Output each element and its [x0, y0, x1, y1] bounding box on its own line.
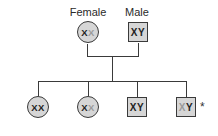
child-drop-line	[38, 81, 39, 96]
male-label: Male	[117, 6, 157, 18]
child-daughter-2: XX	[77, 96, 99, 118]
female-parent-symbol: XX	[77, 21, 99, 43]
chromosome: X	[131, 27, 138, 38]
sibship-line	[38, 81, 187, 82]
chromosome: X	[88, 27, 95, 38]
chromosome: X	[88, 102, 95, 113]
child-son-2: XY	[176, 97, 196, 117]
male-drop-line	[138, 43, 139, 56]
chromosome: Y	[186, 102, 193, 113]
chromosome: Y	[137, 102, 144, 113]
chromosome: X	[38, 102, 45, 113]
chromosome: X	[81, 27, 88, 38]
asterisk-marker: *	[200, 100, 205, 114]
chromosome: X	[130, 102, 137, 113]
male-parent-symbol: XY	[128, 22, 148, 42]
child-drop-line	[88, 81, 89, 96]
chromosome: Y	[138, 27, 145, 38]
chromosome: X	[31, 102, 38, 113]
female-drop-line	[87, 44, 88, 56]
child-daughter-1: XX	[27, 96, 49, 118]
child-drop-line	[186, 81, 187, 97]
descent-line	[112, 56, 113, 81]
female-label: Female	[68, 6, 108, 18]
child-son-1: XY	[127, 97, 147, 117]
chromosome: X	[81, 102, 88, 113]
mating-line	[87, 56, 139, 57]
child-drop-line	[137, 81, 138, 97]
chromosome: X	[179, 102, 186, 113]
